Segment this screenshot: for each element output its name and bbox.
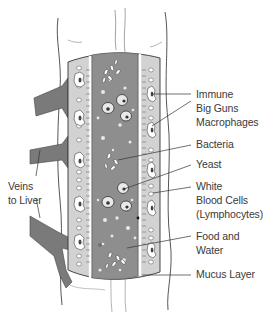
label-big-guns: Big Guns [196,102,238,115]
label-lymphocytes: (Lymphocytes) [196,208,263,221]
label-veins: Veins [8,180,33,193]
label-immune: Immune [196,88,233,101]
label-food-and: Food and [196,230,240,243]
label-to-liver: to Liver [8,194,42,207]
label-macrophages: Macrophages [196,116,259,129]
veins-to-liver [30,78,72,288]
label-yeast: Yeast [196,158,221,171]
intestine-diagram [0,0,263,312]
label-bacteria: Bacteria [196,138,234,151]
label-water: Water [196,244,223,257]
label-mucus-layer: Mucus Layer [196,268,255,281]
label-white: White [196,180,222,193]
label-blood-cells: Blood Cells [196,194,248,207]
